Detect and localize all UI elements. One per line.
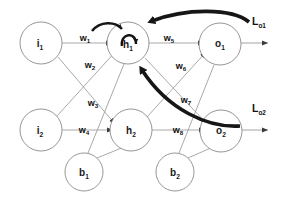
node-h1[interactable]: h1 (107, 22, 149, 64)
loss-label-o1: Lo1 (252, 15, 266, 29)
nodes-group: i1 i2 h1 h2 o1 o2 (20, 22, 242, 191)
node-b1[interactable]: b1 (65, 153, 103, 191)
node-b2[interactable]: b2 (156, 153, 194, 191)
weight-label-w4: w4 (78, 125, 90, 136)
weight-label-w2: w2 (84, 60, 96, 71)
backprop-arrow-loss1-to-h1 (152, 11, 249, 22)
weight-label-w8: w8 (172, 125, 184, 136)
diagram-canvas: i1 i2 h1 h2 o1 o2 (0, 0, 281, 200)
weight-label-w5: w5 (163, 33, 175, 44)
node-i2[interactable]: i2 (20, 109, 62, 151)
weight-label-w7: w7 (180, 95, 192, 106)
loss-labels-group: Lo1 Lo2 (252, 15, 266, 116)
neural-network-diagram: i1 i2 h1 h2 o1 o2 (0, 0, 281, 200)
weight-label-w3: w3 (87, 98, 99, 109)
node-o1[interactable]: o1 (199, 23, 241, 65)
node-h2[interactable]: h2 (110, 109, 152, 151)
weight-label-w1: w1 (79, 33, 91, 44)
edge-b1-h2 (97, 147, 124, 158)
node-i1[interactable]: i1 (20, 22, 62, 64)
weight-label-w6: w6 (175, 61, 187, 72)
loss-label-o2: Lo2 (252, 102, 266, 116)
node-o2[interactable]: o2 (200, 110, 242, 152)
